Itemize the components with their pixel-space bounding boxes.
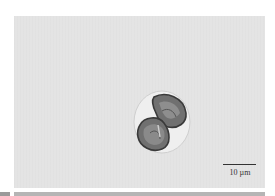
lower-lobe bbox=[138, 118, 169, 150]
bottom-bar bbox=[14, 192, 265, 196]
cell-image bbox=[132, 89, 192, 155]
scale-bar bbox=[223, 164, 256, 165]
micrograph: 10 µm bbox=[14, 16, 265, 188]
bottom-swatch bbox=[0, 192, 10, 196]
scale-bar-label: 10 µm bbox=[224, 168, 256, 177]
